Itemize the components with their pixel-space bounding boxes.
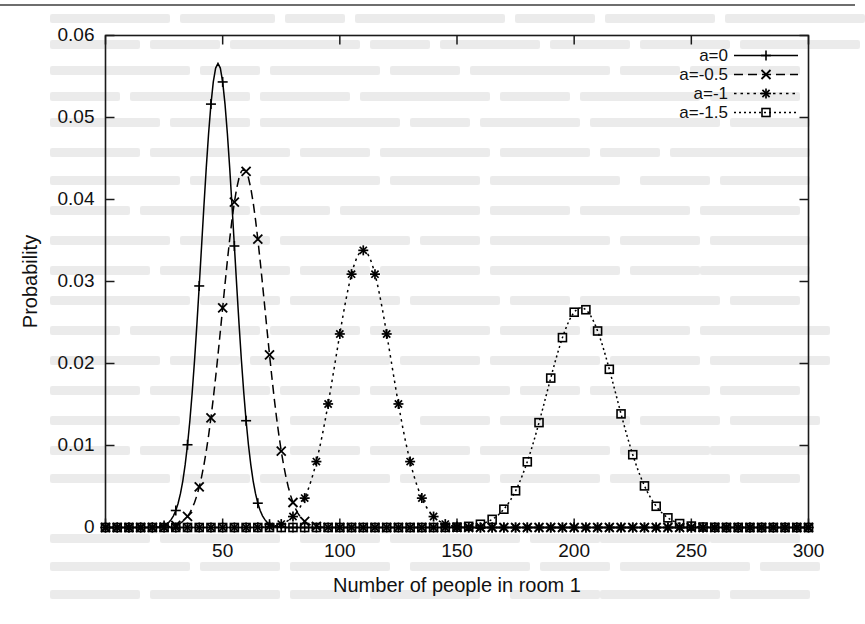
data-marker: [218, 77, 228, 87]
legend-entry-label: a=-1.5: [679, 103, 728, 122]
data-marker: [605, 365, 613, 373]
x-tick-label: 50: [183, 540, 263, 562]
data-marker: [651, 523, 661, 533]
data-marker: [171, 505, 181, 515]
legend-labels: a=0a=-0.5a=-1a=-1.5: [679, 46, 728, 122]
data-marker: [253, 498, 263, 508]
x-tick-label: 250: [651, 540, 731, 562]
data-marker: [499, 523, 509, 533]
series-a-1.5: [102, 306, 813, 532]
x-tick-label: 300: [769, 540, 849, 562]
series-a0: [101, 63, 814, 532]
y-tick-label: 0.04: [58, 188, 95, 210]
legend-marker-sample: [761, 51, 771, 61]
data-marker: [347, 269, 357, 279]
data-marker: [639, 523, 649, 533]
y-tick-label: 0.02: [58, 352, 95, 374]
data-marker: [640, 482, 648, 490]
data-series-layer: [101, 63, 814, 532]
data-marker: [534, 523, 544, 533]
data-marker: [370, 269, 380, 279]
data-marker: [593, 523, 603, 533]
data-marker: [183, 440, 193, 450]
data-marker: [594, 327, 602, 335]
data-marker: [288, 498, 297, 507]
data-marker: [522, 523, 532, 533]
data-marker: [557, 523, 567, 533]
data-marker: [393, 399, 403, 409]
series-a-0.5: [101, 167, 813, 532]
data-marker: [311, 457, 321, 467]
x-tick-label: 200: [534, 540, 614, 562]
y-tick-label: 0: [84, 516, 95, 538]
data-marker: [183, 512, 192, 521]
legend-entry-label: a=-0.5: [679, 65, 728, 84]
legend-marker-sample: [761, 89, 771, 99]
y-tick-label: 0.03: [58, 270, 95, 292]
data-marker: [300, 493, 310, 503]
data-marker: [616, 523, 626, 533]
series-a-1: [101, 245, 814, 532]
data-marker: [488, 515, 496, 523]
data-marker: [382, 329, 392, 339]
data-marker: [323, 399, 333, 409]
data-marker: [288, 512, 298, 522]
legend-sample-lines: [734, 51, 798, 117]
data-marker: [358, 245, 368, 255]
x-axis-label: Number of people in room 1: [56, 574, 859, 597]
y-tick-label: 0.01: [58, 434, 95, 456]
legend-entry-label: a=0: [679, 46, 728, 65]
data-marker: [569, 523, 579, 533]
data-marker: [206, 99, 216, 109]
x-tick-label: 100: [300, 540, 380, 562]
data-marker: [405, 457, 415, 467]
data-marker: [663, 523, 673, 533]
y-tick-label: 0.06: [58, 24, 95, 46]
data-marker: [335, 329, 345, 339]
data-marker: [229, 241, 239, 251]
data-marker: [604, 523, 614, 533]
data-marker: [194, 281, 204, 291]
data-marker: [500, 505, 508, 513]
data-marker: [628, 523, 638, 533]
y-tick-label: 0.05: [58, 106, 95, 128]
data-marker: [241, 416, 251, 426]
data-marker: [570, 308, 578, 316]
x-tick-label: 150: [417, 540, 497, 562]
data-marker: [429, 512, 439, 522]
data-marker: [581, 523, 591, 533]
data-marker: [546, 523, 556, 533]
data-marker: [242, 167, 251, 176]
y-axis-label: Probability: [19, 191, 42, 371]
legend-entry-label: a=-1: [679, 84, 728, 103]
data-marker: [417, 493, 427, 503]
data-marker: [511, 523, 521, 533]
